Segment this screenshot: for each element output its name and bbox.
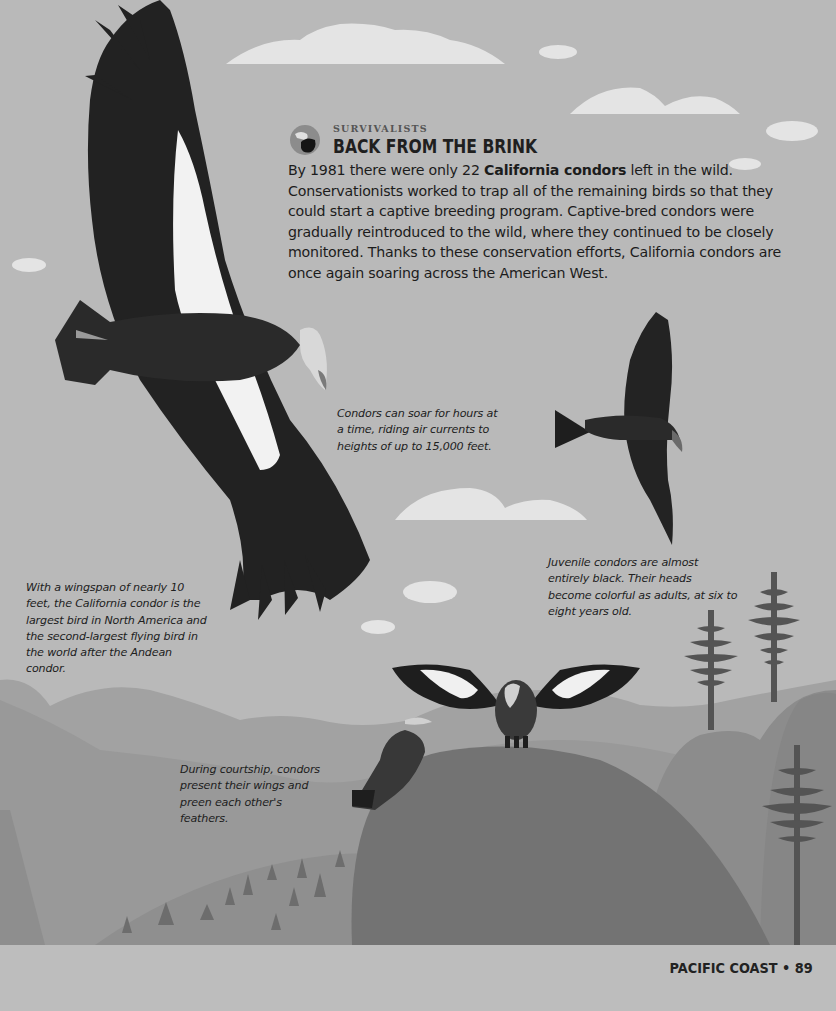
- caption-juvenile: Juvenile condors are almost entirely bla…: [548, 555, 738, 620]
- caption-wingspan: With a wingspan of nearly 10 feet, the C…: [26, 580, 208, 678]
- caption-soaring: Condors can soar for hours at a time, ri…: [337, 406, 499, 455]
- intro-text-start: By 1981 there were only 22: [288, 162, 484, 178]
- page-title: BACK FROM THE BRINK: [333, 135, 537, 157]
- intro-text-end: left in the wild. Conservationists worke…: [288, 162, 781, 281]
- page-folio: PACIFIC COAST • 89: [670, 960, 813, 976]
- folio-separator: •: [782, 960, 790, 976]
- section-kicker: SURVIVALISTS: [333, 123, 428, 134]
- intro-paragraph: By 1981 there were only 22 California co…: [288, 160, 808, 284]
- section-name: PACIFIC COAST: [670, 960, 778, 976]
- condor-head-badge-icon: [289, 124, 321, 156]
- footer-band: [0, 945, 836, 1011]
- caption-courtship: During courtship, condors present their …: [180, 762, 328, 827]
- book-page: SURVIVALISTS BACK FROM THE BRINK By 1981…: [0, 0, 836, 1011]
- page-number: 89: [795, 960, 813, 976]
- intro-bold-term: California condors: [484, 162, 626, 178]
